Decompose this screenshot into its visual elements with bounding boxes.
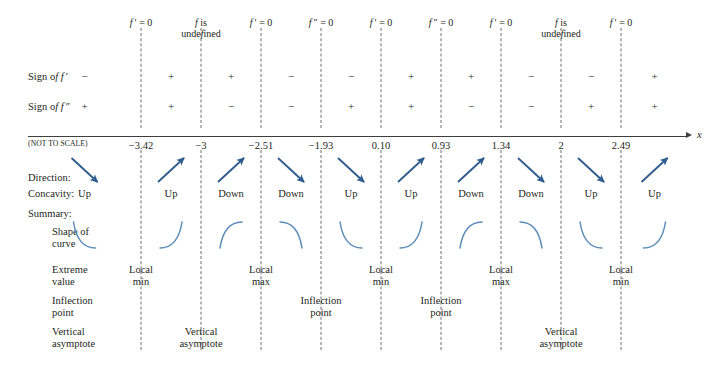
divider-line-8 (561, 28, 562, 128)
not-to-scale-note: (NOT TO SCALE) (28, 140, 88, 149)
direction-and-shape-vectors (0, 0, 718, 380)
divider-line-9 (621, 28, 622, 128)
x-axis-line (28, 136, 688, 137)
tick-label-1: −3.42 (129, 140, 153, 152)
divider-line-7 (501, 28, 502, 128)
divider-line-4 (321, 28, 322, 128)
sign-f-double-prime-interval-4: − (288, 100, 294, 112)
shape-of-curve-4 (280, 222, 302, 248)
sign-f-prime-interval-8: − (528, 70, 534, 82)
direction-arrow-down-5 (338, 158, 364, 182)
shape-of-curve-2 (160, 222, 182, 248)
sign-f-double-prime-interval-3: − (228, 100, 234, 112)
concavity-interval-8: Down (518, 188, 544, 200)
sign-f-prime-interval-6: + (408, 70, 414, 82)
sign-f-double-prime-interval-10: + (651, 100, 657, 112)
divider-line-9 (621, 150, 622, 350)
direction-arrow-up-10 (642, 158, 668, 182)
concavity-interval-7: Down (458, 188, 484, 200)
row-label-inflection-point: Inflectionpoint (52, 295, 93, 319)
row-label-sign-of-f-prime: Sign of f ′ (28, 71, 68, 83)
divider-line-5 (381, 150, 382, 350)
direction-arrow-down-1 (72, 158, 98, 182)
shape-of-curve-3 (220, 222, 242, 248)
tick-label-5: 0.10 (372, 140, 390, 152)
extreme-value-3: Localmax (249, 264, 273, 288)
divider-line-7 (501, 150, 502, 350)
tick-label-7: 1.34 (492, 140, 510, 152)
shape-of-curve-8 (520, 222, 542, 248)
row-label-concavity: Concavity: (28, 188, 74, 200)
sign-f-double-prime-interval-8: − (528, 100, 534, 112)
header-label-fp-zero-9: f ′ = 0 (610, 17, 633, 28)
direction-arrow-up-7 (458, 158, 484, 182)
shape-of-curve-10 (644, 222, 666, 248)
direction-arrow-up-6 (398, 158, 424, 182)
sign-f-prime-interval-4: − (288, 70, 294, 82)
header-label-f-undefined-2: f isundefined (181, 17, 220, 39)
extreme-value-9: Localmin (609, 264, 633, 288)
tick-label-9: 2.49 (612, 140, 630, 152)
x-axis-arrowhead (686, 132, 692, 138)
sign-f-prime-interval-9: − (588, 70, 594, 82)
sign-f-prime-interval-7: + (468, 70, 474, 82)
divider-line-1 (141, 28, 142, 128)
x-axis-label: x (697, 129, 702, 140)
extreme-value-5: Localmin (369, 264, 393, 288)
sign-f-double-prime-interval-9: + (588, 100, 594, 112)
extreme-value-7: Localmax (489, 264, 513, 288)
shape-of-curve-5 (340, 222, 362, 248)
shape-of-curve-7 (460, 222, 482, 248)
direction-arrow-down-4 (278, 158, 304, 182)
shape-of-curve-9 (580, 222, 602, 248)
sign-f-prime-interval-2: + (168, 70, 174, 82)
concavity-interval-5: Up (345, 188, 358, 200)
concavity-interval-2: Up (165, 188, 178, 200)
header-label-fp-zero-5: f ′ = 0 (370, 17, 393, 28)
divider-line-4 (321, 150, 322, 350)
sign-f-double-prime-interval-1: + (81, 100, 87, 112)
header-label-fp-zero-3: f ′ = 0 (250, 17, 273, 28)
inflection-point-6: Inflectionpoint (421, 295, 462, 319)
vertical-asymptote-8: Verticalasymptote (539, 326, 582, 350)
row-label-direction: Direction: (28, 172, 71, 184)
direction-arrow-down-9 (578, 158, 604, 182)
header-label-fpp-zero-4: f ″ = 0 (309, 17, 334, 28)
concavity-interval-1: Up (78, 188, 91, 200)
concavity-interval-3: Down (218, 188, 244, 200)
divider-line-8 (561, 150, 562, 350)
extreme-value-1: Localmin (129, 264, 153, 288)
direction-arrow-up-3 (218, 158, 244, 182)
sign-f-double-prime-interval-5: + (348, 100, 354, 112)
row-label-sign-of-f-double-prime: Sign of f ″ (28, 101, 70, 113)
sign-f-prime-interval-3: + (228, 70, 234, 82)
concavity-interval-10: Up (648, 188, 661, 200)
header-label-fpp-zero-6: f ″ = 0 (429, 17, 454, 28)
divider-line-6 (441, 150, 442, 350)
divider-line-5 (381, 28, 382, 128)
vertical-asymptote-2: Verticalasymptote (179, 326, 222, 350)
divider-line-6 (441, 28, 442, 128)
sign-f-double-prime-interval-6: + (408, 100, 414, 112)
row-label-vertical-asymptote: Verticalasymptote (52, 326, 95, 350)
tick-label-4: −1.93 (309, 140, 333, 152)
inflection-point-4: Inflectionpoint (301, 295, 342, 319)
sign-chart-diagram: Sign of f ′ Sign of f ″ (NOT TO SCALE) D… (0, 0, 718, 380)
divider-line-1 (141, 150, 142, 350)
direction-arrow-down-8 (518, 158, 544, 182)
concavity-interval-6: Up (405, 188, 418, 200)
sign-f-prime-interval-1: − (81, 70, 87, 82)
sign-f-prime-interval-10: + (651, 70, 657, 82)
divider-line-2 (201, 150, 202, 350)
sign-f-double-prime-interval-2: + (168, 100, 174, 112)
divider-line-2 (201, 28, 202, 128)
header-label-f-undefined-8: f isundefined (541, 17, 580, 39)
divider-line-3 (261, 150, 262, 350)
direction-arrow-up-2 (158, 158, 184, 182)
divider-line-3 (261, 28, 262, 128)
row-label-shape-of-curve: Shape ofcurve (52, 226, 89, 250)
tick-label-6: 0.93 (432, 140, 450, 152)
header-label-fp-zero-1: f ′ = 0 (130, 17, 153, 28)
sign-f-double-prime-interval-7: − (468, 100, 474, 112)
shape-of-curve-6 (400, 222, 422, 248)
